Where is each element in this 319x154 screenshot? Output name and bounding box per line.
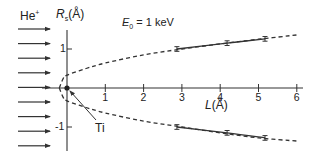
beam-label-text: He (20, 9, 35, 23)
shadow-cone-upper-dashed (59, 35, 296, 88)
x-axis-label-symbol: L (205, 98, 212, 112)
measured-upper-line (177, 39, 265, 49)
y-tick-label: 1 (60, 43, 66, 54)
x-tick-label: 2 (141, 92, 147, 103)
y-axis-label-symbol: R (56, 7, 65, 21)
energy-value: = 1 keV (133, 16, 174, 28)
beam-label: He+ (20, 10, 39, 22)
y-axis-label-unit: (Å) (68, 7, 84, 21)
x-tick-label: 4 (217, 92, 223, 103)
x-tick-label: 1 (102, 92, 108, 103)
y-tick-label: -1 (55, 121, 64, 132)
measured-lower-line (177, 127, 265, 138)
x-tick-label: 5 (256, 92, 262, 103)
beam-label-charge: + (35, 9, 39, 16)
y-axis-label: Rs(Å) (56, 8, 84, 20)
ti-pointer-arrow (70, 91, 96, 120)
energy-annotation: E0 = 1 keV (122, 17, 174, 28)
x-tick-label: 6 (294, 92, 300, 103)
target-label: Ti (95, 122, 105, 134)
ti-atom-dot (64, 85, 69, 90)
he-ion-beam-arrows (18, 29, 50, 146)
x-tick-label: 3 (179, 92, 185, 103)
